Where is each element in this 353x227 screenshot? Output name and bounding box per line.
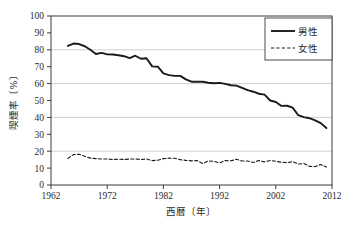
y-axis-title: 喫煙率〔%〕 <box>8 70 19 129</box>
legend-box <box>265 18 332 60</box>
y-tick-label-0: 0 <box>39 180 44 190</box>
x-tick-label-1972: 1972 <box>98 191 117 201</box>
y-tick-label-10: 10 <box>35 164 45 174</box>
y-tick-label-60: 60 <box>35 79 45 89</box>
y-tick-label-100: 100 <box>30 11 45 21</box>
x-tick-label-1992: 1992 <box>210 191 229 201</box>
x-axis-title: 西暦〔年〕 <box>166 206 216 217</box>
x-tick-label-1982: 1982 <box>154 191 173 201</box>
x-tick-label-2012: 2012 <box>323 191 342 201</box>
y-tick-label-90: 90 <box>35 28 45 38</box>
y-tick-label-50: 50 <box>35 96 45 106</box>
y-tick-label-40: 40 <box>35 113 45 123</box>
y-tick-label-20: 20 <box>35 147 45 157</box>
legend-label-female: 女性 <box>298 43 318 54</box>
y-tick-label-70: 70 <box>35 62 45 72</box>
legend-label-male: 男性 <box>298 26 318 37</box>
y-tick-label-80: 80 <box>35 45 45 55</box>
chart-canvas: 0102030405060708090100 19621972198219922… <box>0 0 353 227</box>
x-tick-label-2002: 2002 <box>266 191 285 201</box>
y-tick-label-30: 30 <box>35 130 45 140</box>
x-tick-label-1962: 1962 <box>42 191 61 201</box>
smoking-rate-line-chart: 0102030405060708090100 19621972198219922… <box>0 0 353 227</box>
chart-legend: 男性女性 <box>265 18 332 60</box>
